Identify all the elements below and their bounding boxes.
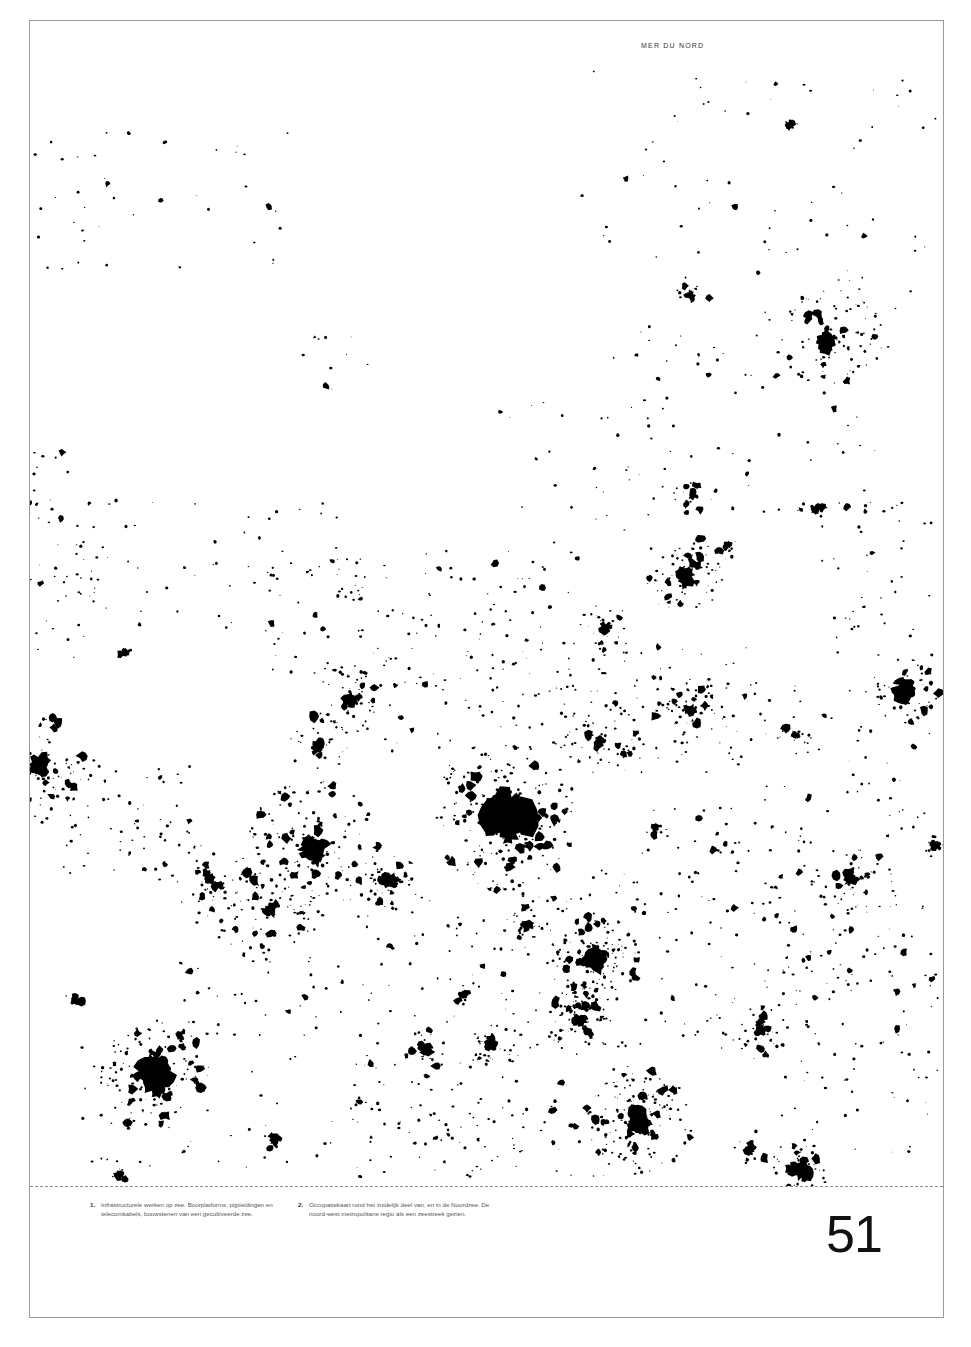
settlement-dot <box>625 469 627 471</box>
settlement-dot <box>115 1084 118 1087</box>
settlement-dot <box>481 849 483 852</box>
settlement-dot <box>928 702 930 703</box>
settlement-dot <box>456 935 458 937</box>
settlement-dot <box>913 660 914 661</box>
settlement-dot <box>770 99 771 100</box>
settlement-dot <box>502 1076 504 1078</box>
urban-patch <box>465 791 477 801</box>
urban-patch <box>42 779 50 786</box>
settlement-dot <box>114 499 117 503</box>
settlement-dot <box>808 1163 810 1165</box>
settlement-dot <box>765 733 766 734</box>
settlement-dot <box>83 636 84 637</box>
settlement-dot <box>640 332 641 333</box>
settlement-dot <box>276 1103 278 1105</box>
settlement-dot <box>451 1137 454 1140</box>
settlement-dot <box>82 768 85 770</box>
settlement-dot <box>338 763 341 765</box>
settlement-dot <box>490 1058 491 1059</box>
settlement-dot <box>174 1076 175 1077</box>
settlement-dot <box>200 845 201 846</box>
settlement-dot <box>678 706 681 708</box>
settlement-dot <box>800 375 803 379</box>
settlement-dot <box>648 340 650 341</box>
settlement-dot <box>70 773 71 774</box>
settlement-dot <box>129 1066 131 1067</box>
urban-patch <box>762 917 766 922</box>
settlement-dot <box>785 252 786 253</box>
settlement-dot <box>601 870 603 872</box>
settlement-dot <box>509 619 511 621</box>
settlement-dot <box>471 945 473 947</box>
settlement-dot <box>142 1109 144 1111</box>
settlement-dot <box>810 505 813 509</box>
settlement-dot <box>778 1161 779 1162</box>
settlement-dot <box>747 1040 750 1043</box>
settlement-dot <box>477 883 478 884</box>
settlement-dot <box>803 841 805 844</box>
settlement-dot <box>484 1035 486 1037</box>
urban-patch <box>323 382 329 390</box>
settlement-dot <box>264 1135 266 1137</box>
settlement-dot <box>912 629 914 630</box>
settlement-dot <box>641 771 643 773</box>
settlement-dot <box>477 1036 479 1038</box>
settlement-dot <box>171 874 174 876</box>
settlement-dot <box>294 862 295 863</box>
settlement-dot <box>324 668 326 670</box>
settlement-dot <box>619 1137 622 1139</box>
settlement-dot <box>734 1147 736 1149</box>
settlement-dot <box>568 963 569 964</box>
settlement-dot <box>414 1015 416 1017</box>
settlement-dot <box>841 192 843 193</box>
urban-patch <box>521 904 530 912</box>
urban-patch <box>311 860 316 865</box>
settlement-dot <box>650 437 652 439</box>
settlement-dot <box>163 1066 164 1067</box>
settlement-dot <box>131 1075 132 1076</box>
settlement-dot <box>303 631 306 634</box>
settlement-dot <box>37 649 39 650</box>
settlement-dot <box>560 783 563 785</box>
settlement-dot <box>176 1111 178 1112</box>
settlement-dot <box>270 878 274 882</box>
settlement-dot <box>855 304 856 305</box>
settlement-dot <box>275 655 276 656</box>
settlement-dot <box>608 240 611 243</box>
settlement-dot <box>43 775 46 777</box>
settlement-dot <box>479 639 480 640</box>
settlement-dot <box>155 1073 156 1074</box>
settlement-dot <box>750 684 752 685</box>
settlement-dot <box>847 425 849 426</box>
settlement-dot <box>858 288 860 290</box>
settlement-dot <box>895 895 897 897</box>
settlement-dot <box>564 1005 567 1007</box>
settlement-dot <box>313 672 315 673</box>
urban-patch <box>38 581 45 587</box>
settlement-dot <box>627 750 629 752</box>
urban-patch <box>65 797 70 802</box>
settlement-dot <box>587 1113 589 1115</box>
settlement-dot <box>688 293 689 294</box>
settlement-dot <box>575 728 577 730</box>
settlement-dot <box>376 1042 379 1045</box>
settlement-dot <box>73 993 74 994</box>
settlement-dot <box>891 1152 892 1153</box>
settlement-dot <box>849 878 851 880</box>
urban-patch <box>695 815 703 822</box>
settlement-dot <box>196 195 197 196</box>
settlement-dot <box>794 309 796 310</box>
urban-patch <box>638 1167 641 1170</box>
settlement-dot <box>752 1014 755 1016</box>
urban-patch <box>430 1063 441 1070</box>
settlement-dot <box>77 262 79 264</box>
settlement-dot <box>850 889 851 890</box>
settlement-dot <box>794 1107 796 1109</box>
urban-patch <box>76 761 80 764</box>
settlement-dot <box>586 1017 587 1018</box>
settlement-dot <box>642 743 645 745</box>
settlement-dot <box>711 728 713 729</box>
settlement-dot <box>505 634 508 637</box>
settlement-dot <box>561 1047 563 1049</box>
settlement-dot <box>338 568 339 569</box>
